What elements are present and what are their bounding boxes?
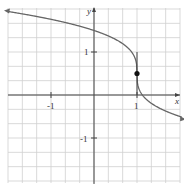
x-tick-label-neg1: -1 <box>47 101 55 111</box>
inflection-point <box>134 71 139 76</box>
graph: x y -1 1 1 -1 <box>0 0 184 192</box>
y-tick-label-neg1: -1 <box>80 134 88 144</box>
y-tick-label-1: 1 <box>84 47 89 57</box>
x-tick-label-1: 1 <box>134 101 139 111</box>
x-axis-label: x <box>174 96 179 106</box>
axes <box>8 7 180 184</box>
y-axis-label: y <box>86 6 91 16</box>
